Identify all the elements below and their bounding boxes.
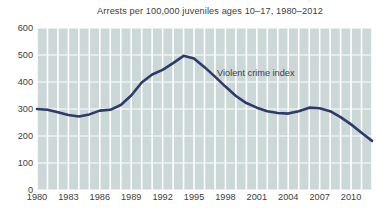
x-axis-tick-label: 1986 (90, 192, 110, 202)
x-axis-tick-label: 1992 (152, 192, 172, 202)
x-axis-tick-label: 2007 (309, 192, 329, 202)
x-axis-tick-label: 2001 (247, 192, 267, 202)
chart-figure: Arrests per 100,000 juveniles ages 10–17… (0, 0, 383, 221)
x-axis: 1980198319861989199219951998200120042007… (37, 192, 372, 208)
y-axis: 0100200300400500600 (0, 28, 33, 190)
y-axis-tick-label: 300 (18, 104, 33, 114)
series-annotation-label: Violent crime index (217, 68, 294, 78)
plot-area (37, 28, 372, 190)
y-axis-tick-label: 100 (18, 158, 33, 168)
x-axis-tick-label: 1995 (184, 192, 204, 202)
y-axis-tick-label: 200 (18, 131, 33, 141)
data-series-layer (37, 28, 372, 190)
y-axis-tick-label: 500 (18, 50, 33, 60)
x-axis-tick-label: 1998 (215, 192, 235, 202)
x-axis-tick-label: 1980 (27, 192, 47, 202)
x-axis-tick-label: 2004 (278, 192, 298, 202)
x-axis-tick-label: 2010 (341, 192, 361, 202)
y-axis-tick-label: 600 (18, 23, 33, 33)
series-line-violent-crime-index (37, 56, 372, 141)
y-axis-tick-label: 400 (18, 77, 33, 87)
chart-title: Arrests per 100,000 juveniles ages 10–17… (55, 6, 365, 16)
x-axis-tick-label: 1989 (121, 192, 141, 202)
x-axis-tick-label: 1983 (58, 192, 78, 202)
